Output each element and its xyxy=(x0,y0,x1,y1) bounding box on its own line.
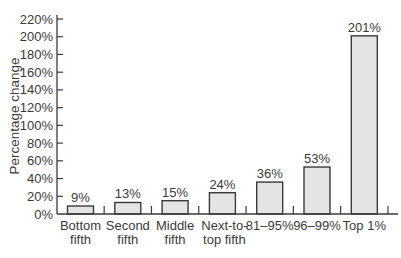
bar xyxy=(257,182,283,214)
y-tick-label: 200% xyxy=(20,29,54,44)
y-axis-title: Percentage change xyxy=(7,57,22,174)
value-labels: 9%13%15%24%36%53%201% xyxy=(71,20,381,205)
y-tick-label: 180% xyxy=(20,47,54,62)
y-tick-label: 120% xyxy=(20,100,54,115)
bar xyxy=(351,36,377,214)
x-tick-label: fifth xyxy=(117,232,138,247)
category-labels: BottomfifthSecondfifthMiddlefifthNext-to… xyxy=(60,218,387,247)
data-label: 201% xyxy=(348,20,382,35)
y-tick-label: 0% xyxy=(34,207,53,222)
y-tick-label: 80% xyxy=(27,136,53,151)
y-tick-label: 20% xyxy=(27,189,53,204)
data-label: 13% xyxy=(115,186,141,201)
y-tick-label: 40% xyxy=(27,171,53,186)
x-tick-label: top fifth xyxy=(203,232,246,247)
x-tick-label: Top 1% xyxy=(343,218,387,233)
data-label: 36% xyxy=(257,166,283,181)
x-tick-label: 81–95% xyxy=(246,218,294,233)
y-tick-label: 160% xyxy=(20,65,54,80)
x-tick-label: Middle xyxy=(156,218,194,233)
y-tick-label: 140% xyxy=(20,82,54,97)
x-tick-label: Bottom xyxy=(60,218,101,233)
x-tick-label: fifth xyxy=(165,232,186,247)
y-tick-label: 100% xyxy=(20,118,54,133)
x-tick-label: Second xyxy=(106,218,150,233)
data-label: 15% xyxy=(162,185,188,200)
y-tick-label: 220% xyxy=(20,12,54,27)
bar xyxy=(115,202,141,214)
bar xyxy=(68,206,94,214)
x-tick-label: 96–99% xyxy=(293,218,341,233)
y-tick-label: 60% xyxy=(27,153,53,168)
x-tick-label: fifth xyxy=(70,232,91,247)
x-tick-label: Next-to- xyxy=(201,218,247,233)
bar xyxy=(209,193,235,214)
bar xyxy=(304,167,330,214)
data-label: 53% xyxy=(304,151,330,166)
data-label: 24% xyxy=(209,177,235,192)
bar xyxy=(162,201,188,214)
x-axis-ticks xyxy=(104,206,388,214)
bar-chart: 0%20%40%60%80%100%120%140%160%180%200%22… xyxy=(0,0,401,258)
data-label: 9% xyxy=(71,190,90,205)
